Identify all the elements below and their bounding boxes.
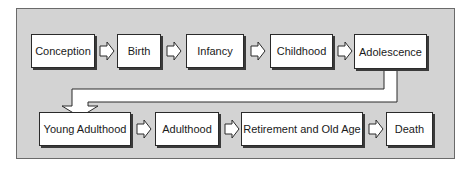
stage-box-adulthood: Adulthood (155, 112, 219, 146)
right-arrow-icon (166, 41, 182, 61)
stage-box-retirement-old-age: Retirement and Old Age (241, 112, 363, 146)
stage-box-infancy: Infancy (186, 34, 244, 68)
stage-label: Birth (128, 45, 151, 57)
stage-label: Conception (35, 45, 91, 57)
right-arrow-icon (250, 41, 266, 61)
right-arrow-icon (337, 41, 353, 61)
right-arrow-icon (136, 119, 152, 139)
right-arrow-icon (368, 119, 384, 139)
stage-label: Young Adulthood (44, 123, 127, 135)
stage-box-conception: Conception (31, 34, 95, 68)
stage-box-childhood: Childhood (270, 34, 333, 68)
stage-label: Adulthood (162, 123, 212, 135)
stage-box-young-adulthood: Young Adulthood (39, 112, 131, 146)
life-stages-diagram: Conception Birth Infancy Childhood Adole… (0, 0, 468, 180)
stage-label: Childhood (277, 45, 327, 57)
stage-label: Infancy (197, 45, 232, 57)
stage-box-birth: Birth (117, 34, 161, 68)
stage-box-death: Death (386, 112, 433, 146)
stage-label: Retirement and Old Age (243, 123, 360, 135)
right-arrow-icon (224, 119, 240, 139)
stage-label: Adolescence (359, 46, 422, 58)
elbow-down-arrow-icon (0, 0, 468, 180)
stage-label: Death (395, 123, 424, 135)
right-arrow-icon (99, 41, 115, 61)
stage-box-adolescence: Adolescence (354, 34, 427, 69)
